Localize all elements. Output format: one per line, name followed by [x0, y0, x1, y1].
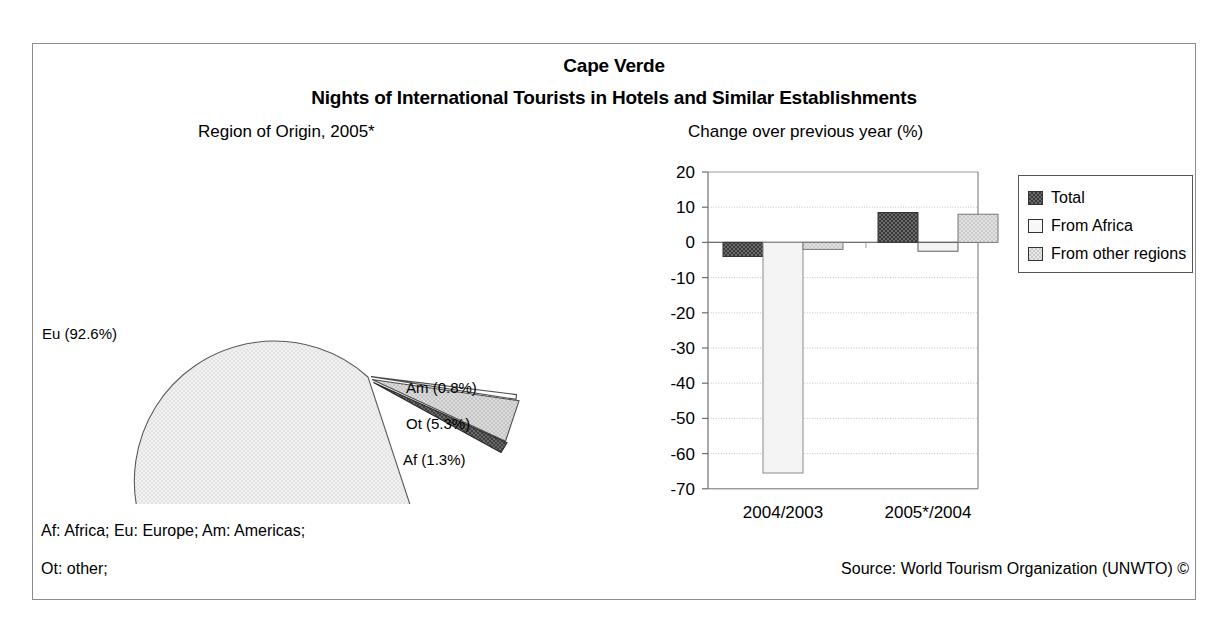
bar-africa-2005-2004	[918, 242, 958, 251]
y-axis-ticks	[702, 172, 708, 489]
bar-africa-2004-2003	[763, 242, 803, 473]
legend-label-from-other-regions: From other regions	[1051, 245, 1186, 263]
pie-label-africa: Af (1.3%)	[403, 451, 466, 468]
bar-total-2004-2003	[723, 242, 763, 256]
ytick-label: 10	[676, 198, 695, 217]
figure-frame: Cape Verde Nights of International Touri…	[32, 43, 1196, 600]
legend-swatch-from-africa-icon	[1028, 219, 1043, 233]
pie-panel-title: Region of Origin, 2005*	[198, 122, 375, 142]
bar-total-2005-2004	[878, 213, 918, 243]
legend-label-total: Total	[1051, 189, 1085, 207]
ytick-label: -70	[670, 480, 695, 499]
ytick-label: -30	[670, 339, 695, 358]
pie-label-americas: Am (0.8%)	[406, 379, 477, 396]
pie-chart-panel: Eu (92.6%) Am (0.8%) Ot (5.3%) Af (1.3%)	[33, 144, 633, 504]
legend-item-total[interactable]: Total	[1028, 184, 1192, 212]
bar-other-2004-2003	[803, 242, 843, 249]
axis-frame	[708, 172, 978, 489]
ytick-label: 0	[686, 233, 695, 252]
legend-swatch-from-other-regions-icon	[1028, 247, 1043, 261]
y-axis-tick-labels: 20 10 0 -10 -20 -30 -40 -50 -60 -70	[670, 163, 695, 499]
gridlines	[708, 172, 978, 489]
footnote-line-1: Af: Africa; Eu: Europe; Am: Americas;	[41, 522, 305, 540]
chart-title: Cape Verde	[33, 55, 1195, 77]
xtick-label-2005-2004: 2005*/2004	[885, 503, 972, 522]
pie-label-europe: Eu (92.6%)	[42, 325, 117, 342]
ytick-label: -10	[670, 269, 695, 288]
legend-item-from-other-regions[interactable]: From other regions	[1028, 240, 1192, 268]
pie-label-other: Ot (5.3%)	[406, 415, 470, 432]
legend-item-from-africa[interactable]: From Africa	[1028, 212, 1192, 240]
bar-panel-title: Change over previous year (%)	[688, 122, 923, 142]
ytick-label: -50	[670, 409, 695, 428]
bar-chart-legend: Total From Africa From other regions	[1018, 175, 1193, 273]
pie-slice-europe	[134, 341, 411, 504]
ytick-label: -60	[670, 445, 695, 464]
ytick-label: -20	[670, 304, 695, 323]
bar-other-2005-2004	[958, 214, 998, 242]
xtick-label-2004-2003: 2004/2003	[743, 503, 823, 522]
footnote-line-2: Ot: other;	[41, 560, 108, 578]
legend-swatch-total-icon	[1028, 191, 1043, 205]
legend-label-from-africa: From Africa	[1051, 217, 1133, 235]
source-note: Source: World Tourism Organization (UNWT…	[841, 560, 1189, 578]
chart-subtitle: Nights of International Tourists in Hote…	[33, 87, 1195, 109]
ytick-label: -40	[670, 374, 695, 393]
pie-chart-svg	[33, 144, 633, 504]
ytick-label: 20	[676, 163, 695, 182]
